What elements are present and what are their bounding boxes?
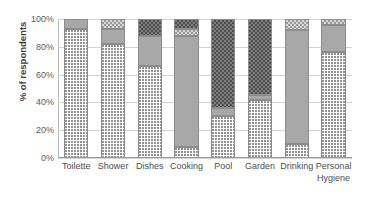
x-axis-tick-label-line: Hygiene (311, 173, 356, 185)
bar-segment[interactable] (101, 29, 125, 44)
bars-layer (58, 19, 352, 158)
bar-segment[interactable] (321, 19, 345, 25)
bar-segment[interactable] (64, 19, 88, 29)
bar-segment[interactable] (285, 30, 309, 144)
bar-column[interactable] (64, 19, 88, 158)
x-axis-tick-labels: ToiletteShowerDishesCookingPoolGardenDri… (58, 161, 352, 205)
bar-segment[interactable] (174, 19, 198, 29)
x-axis-tick-label-line: Personal (316, 161, 352, 171)
bar-column[interactable] (101, 19, 125, 158)
bar-column[interactable] (321, 19, 345, 158)
bar-column[interactable] (248, 19, 272, 158)
plot-area (58, 19, 352, 158)
x-axis-line (58, 157, 352, 158)
bar-segment[interactable] (285, 19, 309, 30)
bar-segment[interactable] (174, 36, 198, 147)
x-axis-tick-label-line: Toilette (62, 161, 91, 171)
bar-segment[interactable] (138, 66, 162, 158)
y-axis-tick-labels: 100%80%60%40%20%0% (14, 0, 54, 207)
y-axis-tick-label: 80% (14, 42, 54, 52)
bar-segment[interactable] (138, 19, 162, 36)
bar-column[interactable] (285, 19, 309, 158)
gridline (58, 158, 352, 159)
y-axis-tick-label: 100% (14, 14, 54, 24)
x-axis-tick-label: PersonalHygiene (311, 161, 356, 184)
stacked-bar-chart: % of respondents 100%80%60%40%20%0% Toil… (0, 0, 370, 207)
bar-column[interactable] (211, 19, 235, 158)
bar-segment[interactable] (101, 44, 125, 158)
x-axis-tick-label-line: Garden (245, 161, 275, 171)
bar-segment[interactable] (174, 29, 198, 36)
bar-segment[interactable] (285, 144, 309, 158)
y-axis-tick-label: 0% (14, 153, 54, 163)
bar-segment[interactable] (248, 100, 272, 158)
bar-segment[interactable] (248, 95, 272, 99)
x-axis-tick-label-line: Drinking (280, 161, 313, 171)
bar-segment[interactable] (211, 19, 235, 108)
bar-segment[interactable] (248, 19, 272, 95)
bar-column[interactable] (174, 19, 198, 158)
bar-segment[interactable] (64, 29, 88, 158)
bar-column[interactable] (138, 19, 162, 158)
bar-segment[interactable] (138, 36, 162, 67)
x-axis-tick-label-line: Shower (98, 161, 129, 171)
bar-segment[interactable] (211, 116, 235, 158)
bar-segment[interactable] (101, 19, 125, 29)
x-axis-tick-label-line: Pool (214, 161, 232, 171)
bar-segment[interactable] (321, 25, 345, 53)
x-axis-tick-label-line: Cooking (170, 161, 203, 171)
x-axis-tick-label-line: Dishes (136, 161, 164, 171)
y-axis-tick-label: 60% (14, 70, 54, 80)
y-axis-tick-label: 40% (14, 97, 54, 107)
bar-segment[interactable] (321, 52, 345, 158)
y-axis-tick-label: 20% (14, 125, 54, 135)
bar-segment[interactable] (211, 108, 235, 116)
